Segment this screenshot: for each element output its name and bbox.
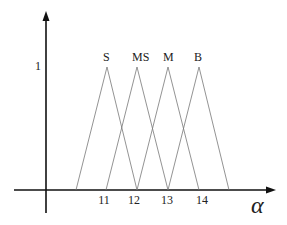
- triangle-m: [137, 67, 199, 190]
- x-axis-arrow-icon: [266, 187, 276, 194]
- series-label-m: M: [163, 51, 174, 63]
- x-tick-14: 14: [196, 194, 208, 206]
- x-tick-12: 12: [128, 194, 140, 206]
- x-axis-label: α: [251, 193, 264, 217]
- series-label-b: B: [194, 51, 202, 63]
- fuzzy-membership-chart: [0, 0, 287, 225]
- y-tick-one: 1: [35, 60, 41, 72]
- triangle-b: [168, 67, 229, 190]
- series-label-s: S: [103, 51, 110, 63]
- triangle-ms: [106, 67, 168, 190]
- x-tick-13: 13: [161, 194, 173, 206]
- series-label-ms: MS: [132, 51, 149, 63]
- x-tick-11: 11: [98, 194, 110, 206]
- y-axis-arrow-icon: [43, 11, 50, 21]
- triangle-s: [76, 67, 137, 190]
